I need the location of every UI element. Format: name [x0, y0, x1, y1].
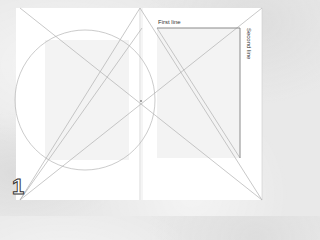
page-number: 1: [12, 176, 24, 198]
center-intersection: [140, 100, 142, 102]
layout-diagram: [0, 0, 278, 216]
second-line-label: Second line: [246, 28, 252, 59]
left-text-block: [45, 40, 129, 160]
first-line-label: First line: [158, 19, 181, 25]
